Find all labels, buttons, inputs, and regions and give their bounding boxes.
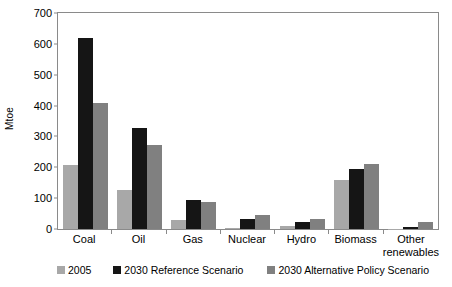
bar-gas-2030-reference [186, 200, 201, 229]
bar-chart: Mtoe 700 600 500 400 300 200 100 0 [0, 0, 452, 287]
bar-group-coal [58, 13, 112, 229]
x-label-biomass: Biomass [328, 233, 382, 258]
plot-area: 700 600 500 400 300 200 100 0 [57, 12, 439, 230]
bar-coal-2030-alternative [93, 103, 108, 230]
bar-biomass-2030-reference [349, 169, 364, 229]
bar-nuclear-2030-reference [240, 219, 255, 229]
chart-legend: 2005 2030 Reference Scenario 2030 Altern… [57, 264, 445, 276]
bar-nuclear-2030-alternative [255, 215, 270, 230]
bar-oil-2030-alternative [147, 145, 162, 229]
bar-group-biomass [329, 13, 383, 229]
legend-swatch-2030-reference [113, 266, 121, 274]
y-tick-600: 600 [34, 38, 58, 50]
y-tick-200: 200 [34, 161, 58, 173]
bar-groups [58, 13, 438, 229]
legend-label-2005: 2005 [68, 264, 91, 276]
y-axis-title: Mtoe [2, 88, 18, 148]
bar-group-gas [167, 13, 221, 229]
legend-item-2030-reference: 2030 Reference Scenario [113, 264, 243, 276]
bar-coal-2030-reference [78, 38, 93, 229]
bar-hydro-2030-alternative [310, 219, 325, 229]
bar-hydro-2005 [280, 226, 295, 229]
legend-swatch-2005 [57, 266, 65, 274]
bar-gas-2005 [171, 220, 186, 229]
bar-other-renewables-2030-reference [403, 227, 418, 229]
y-tick-300: 300 [34, 130, 58, 142]
y-tick-700: 700 [34, 7, 58, 19]
x-label-other-line1: Other [383, 233, 439, 246]
legend-swatch-2030-alternative [267, 266, 275, 274]
bar-nuclear-2005 [225, 228, 240, 229]
bar-oil-2005 [117, 190, 132, 229]
bar-coal-2005 [63, 165, 78, 229]
x-axis-labels: Coal Oil Gas Nuclear Hydro Biomass Other… [57, 233, 439, 258]
bar-group-hydro [275, 13, 329, 229]
x-label-other-line2: renewables [383, 246, 439, 259]
legend-item-2030-alternative: 2030 Alternative Policy Scenario [267, 264, 429, 276]
x-label-coal: Coal [57, 233, 111, 258]
y-tick-400: 400 [34, 100, 58, 112]
legend-item-2005: 2005 [57, 264, 91, 276]
x-label-oil: Oil [111, 233, 165, 258]
bar-gas-2030-alternative [201, 202, 216, 229]
legend-label-2030-reference: 2030 Reference Scenario [124, 264, 243, 276]
x-label-other-renewables: Other renewables [383, 233, 439, 258]
x-label-gas: Gas [166, 233, 220, 258]
bar-hydro-2030-reference [295, 222, 310, 229]
bar-biomass-2005 [334, 180, 349, 229]
bar-biomass-2030-alternative [364, 164, 379, 229]
y-tick-100: 100 [34, 192, 58, 204]
y-tick-500: 500 [34, 69, 58, 81]
bar-oil-2030-reference [132, 128, 147, 229]
bar-group-nuclear [221, 13, 275, 229]
x-label-nuclear: Nuclear [220, 233, 274, 258]
bar-other-renewables-2030-alternative [418, 222, 433, 229]
bar-group-other-renewables [384, 13, 438, 229]
legend-label-2030-alternative: 2030 Alternative Policy Scenario [278, 264, 429, 276]
bar-group-oil [112, 13, 166, 229]
x-label-hydro: Hydro [274, 233, 328, 258]
